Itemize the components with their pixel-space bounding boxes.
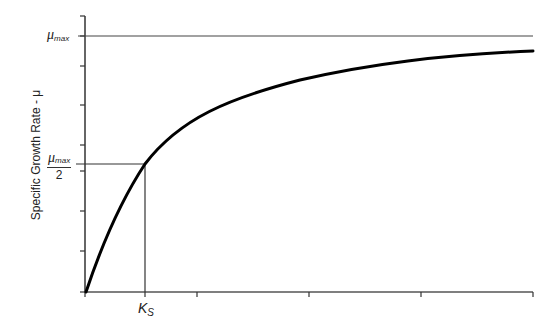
mu-half-label: μmax 2	[47, 150, 71, 183]
chart-canvas	[0, 0, 544, 331]
max-subscript: max	[54, 34, 69, 43]
mu-symbol: μ	[47, 27, 54, 42]
y-axis-label: Specific Growth Rate - μ	[29, 55, 43, 255]
mu-max-label: μmax	[47, 27, 69, 43]
growth-curve	[86, 51, 533, 292]
mu-half-numerator: μmax	[47, 150, 71, 168]
mu-half-denominator: 2	[47, 168, 71, 183]
ks-subscript: S	[147, 307, 154, 318]
ks-symbol: K	[138, 300, 147, 316]
max-subscript: max	[55, 156, 70, 165]
mu-symbol: μ	[48, 150, 55, 165]
ks-label: KS	[138, 300, 154, 316]
